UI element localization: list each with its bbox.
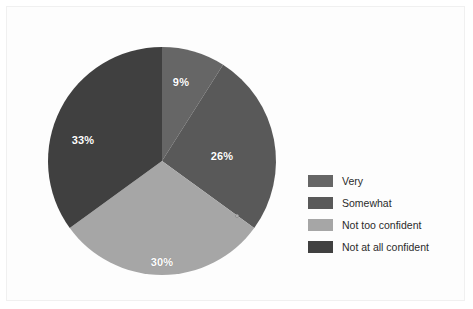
legend-item[interactable]: Somewhat bbox=[308, 194, 458, 212]
pie-slice-value-label: 26% bbox=[211, 150, 234, 162]
legend-item-label: Not too confident bbox=[342, 219, 421, 231]
chart-legend: VerySomewhatNot too confidentNot at all … bbox=[308, 172, 458, 260]
slice-edge-marker-icon bbox=[235, 214, 239, 218]
legend-swatch-icon bbox=[308, 241, 333, 253]
legend-item-label: Somewhat bbox=[342, 197, 392, 209]
legend-item-label: Not at all confident bbox=[342, 241, 429, 253]
pie-chart-canvas bbox=[0, 0, 473, 309]
pie-chart-figure: 9%26%30%33% VerySomewhatNot too confiden… bbox=[0, 0, 473, 309]
pie-slice-value-label: 9% bbox=[173, 76, 189, 88]
legend-item[interactable]: Very bbox=[308, 172, 458, 190]
legend-item[interactable]: Not at all confident bbox=[308, 238, 458, 256]
legend-swatch-icon bbox=[308, 219, 333, 231]
legend-swatch-icon bbox=[308, 197, 333, 209]
pie-slice-value-label: 33% bbox=[72, 134, 95, 146]
legend-item[interactable]: Not too confident bbox=[308, 216, 458, 234]
pie-slice-value-label: 30% bbox=[151, 256, 174, 268]
pie-slices-group bbox=[48, 47, 276, 275]
legend-swatch-icon bbox=[308, 175, 333, 187]
legend-item-label: Very bbox=[342, 175, 363, 187]
